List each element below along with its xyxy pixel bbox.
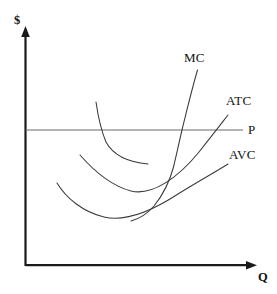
y-axis-arrowhead	[21, 26, 30, 37]
price-line-label: P	[248, 122, 255, 137]
atc-curve	[80, 115, 228, 192]
avc-curve-label: AVC	[229, 147, 256, 162]
atc-curve-label: ATC	[226, 93, 251, 108]
x-axis-label: Q	[258, 270, 268, 284]
mc-curve	[131, 70, 198, 221]
cost-curve-diagram: $ Q MC ATC AVC P	[0, 0, 277, 294]
diagram-canvas: $ Q MC ATC AVC P	[0, 0, 277, 294]
atc-left-segment-curve	[96, 102, 148, 164]
x-axis-arrowhead	[246, 261, 257, 270]
mc-curve-label: MC	[184, 50, 205, 65]
y-axis-label: $	[14, 13, 20, 27]
